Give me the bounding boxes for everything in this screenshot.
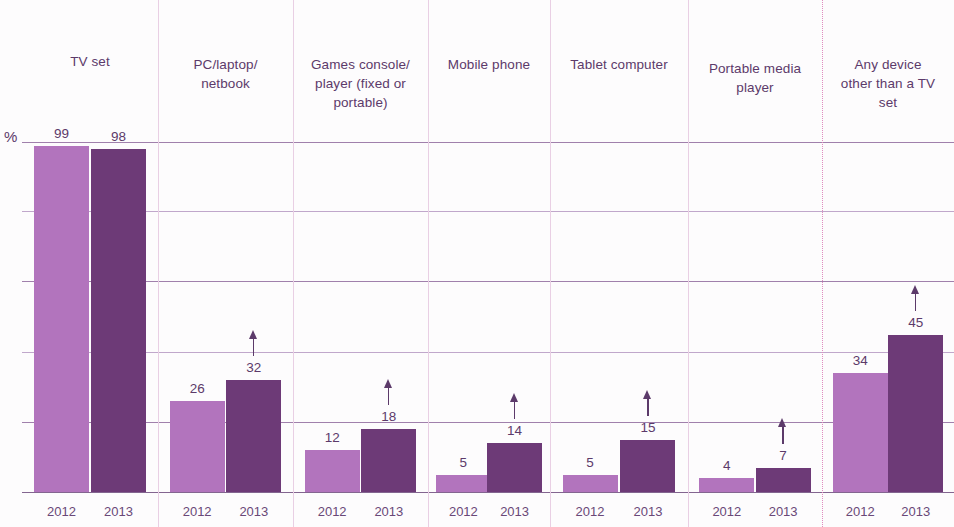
bar-value-label: 5	[560, 455, 620, 470]
axis-unit-label: %	[4, 128, 17, 145]
bar-value-label: 12	[302, 430, 362, 445]
bar-value-label: 98	[89, 129, 149, 144]
column-header-line: player	[688, 78, 822, 97]
column-header-line: TV set	[22, 52, 158, 71]
column-header-line: player (fixed or	[293, 74, 428, 93]
column-header-line: PC/laptop/	[158, 55, 293, 74]
significant-increase-arrow-icon	[911, 285, 921, 312]
bar-2013-1	[91, 149, 146, 492]
bar-2012-4	[436, 475, 491, 493]
column-separator-4	[550, 0, 551, 527]
significant-increase-arrow-icon	[249, 330, 259, 357]
bar-value-label: 4	[697, 458, 757, 473]
column-header-line: set	[822, 93, 954, 112]
bar-value-label: 14	[485, 423, 545, 438]
axis-baseline	[22, 492, 954, 493]
column-header-line: other than a TV	[822, 74, 954, 93]
bar-2013-5	[620, 440, 675, 493]
x-axis-tick-label: 2013	[881, 504, 951, 519]
column-header-line: Tablet computer	[550, 55, 688, 74]
bar-2013-6	[756, 468, 811, 493]
significant-increase-arrow-icon	[643, 390, 653, 417]
column-header-line: netbook	[158, 74, 293, 93]
column-header: Games console/player (fixed orportable)	[293, 55, 428, 112]
bar-2012-1	[34, 146, 89, 493]
column-header-line: Mobile phone	[428, 55, 550, 74]
arrow-shaft-icon	[388, 386, 390, 405]
bar-value-label: 26	[167, 381, 227, 396]
gridline-100	[22, 281, 954, 282]
column-header: Portable mediaplayer	[688, 59, 822, 97]
bar-value-label: 5	[433, 455, 493, 470]
bar-value-label: 45	[886, 315, 946, 330]
arrow-shaft-icon	[647, 397, 649, 416]
x-axis-tick-label: 2013	[480, 504, 550, 519]
bar-chart: % TV set992012982013PC/laptop/netbook262…	[0, 0, 954, 527]
column-header: PC/laptop/netbook	[158, 55, 293, 93]
x-axis-tick-label: 2013	[613, 504, 683, 519]
bar-2012-2	[170, 401, 225, 492]
bar-value-label: 99	[31, 126, 91, 141]
column-header-line: Games console/	[293, 55, 428, 74]
arrow-shaft-icon	[514, 400, 516, 419]
arrow-shaft-icon	[915, 292, 917, 311]
column-header: Mobile phone	[428, 55, 550, 74]
column-header-line: Portable media	[688, 59, 822, 78]
bar-2013-3	[361, 429, 416, 492]
significant-increase-arrow-icon	[510, 393, 520, 420]
bar-2012-3	[305, 450, 360, 492]
bar-2012-6	[699, 478, 754, 492]
significant-increase-arrow-icon	[384, 379, 394, 406]
gridline-140	[22, 142, 954, 143]
column-header: TV set	[22, 52, 158, 71]
arrow-shaft-icon	[782, 425, 784, 444]
bar-value-label: 7	[753, 448, 813, 463]
bar-value-label: 18	[359, 409, 419, 424]
x-axis-tick-label: 2013	[748, 504, 818, 519]
arrow-shaft-icon	[253, 337, 255, 356]
bar-2013-4	[487, 443, 542, 492]
bar-2012-7	[833, 373, 888, 492]
gridline-120	[22, 211, 954, 212]
column-header-line: Any device	[822, 55, 954, 74]
significant-increase-arrow-icon	[778, 418, 788, 445]
x-axis-tick-label: 2013	[354, 504, 424, 519]
x-axis-tick-label: 2013	[219, 504, 289, 519]
column-header: Tablet computer	[550, 55, 688, 74]
x-axis-tick-label: 2013	[84, 504, 154, 519]
bar-2013-7	[888, 335, 943, 493]
column-header: Any deviceother than a TVset	[822, 55, 954, 112]
gridline-80	[22, 352, 954, 353]
bar-2012-5	[563, 475, 618, 493]
column-header-line: portable)	[293, 93, 428, 112]
bar-value-label: 32	[224, 360, 284, 375]
bar-2013-2	[226, 380, 281, 492]
bar-value-label: 15	[618, 420, 678, 435]
column-separator-3	[428, 0, 429, 527]
bar-value-label: 34	[830, 353, 890, 368]
